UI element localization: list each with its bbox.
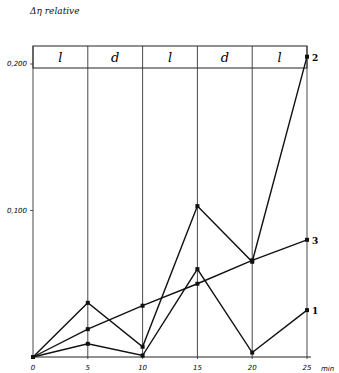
data-point-marker [195,204,199,208]
data-point-marker [141,345,145,349]
phase-band-label: l [168,50,172,65]
data-point-marker [305,238,309,242]
data-point-marker [250,258,254,262]
data-point-marker [195,267,199,271]
x-axis-label: min [321,365,334,373]
series-label-3: 3 [312,236,318,246]
x-tick-label: 15 [193,364,202,372]
data-point-marker [141,304,145,308]
data-point-marker [250,351,254,355]
x-tick-label: 20 [248,364,257,372]
phase-band-label: d [221,50,229,65]
phase-band-label: l [278,50,282,65]
data-point-marker [305,308,309,312]
data-point-marker [86,342,90,346]
data-point-marker [31,355,35,359]
series-line-1 [33,269,307,357]
y-tick-label: 0,100 [7,207,28,215]
y-tick-label: 0,200 [7,60,28,68]
line-chart: ldldl0510152025min0,1000,200123 [0,0,339,373]
series-line-3 [33,240,307,357]
data-point-marker [86,301,90,305]
phase-band-label: d [111,50,119,65]
data-point-marker [305,55,309,59]
x-tick-label: 10 [138,364,147,372]
series-label-1: 1 [312,306,318,316]
x-tick-label: 5 [86,364,91,372]
x-tick-label: 0 [31,364,36,372]
series-label-2: 2 [312,53,318,63]
data-point-marker [86,327,90,331]
x-tick-label: 25 [303,364,312,372]
data-point-marker [141,354,145,358]
data-point-marker [195,282,199,286]
phase-band-label: l [58,50,62,65]
